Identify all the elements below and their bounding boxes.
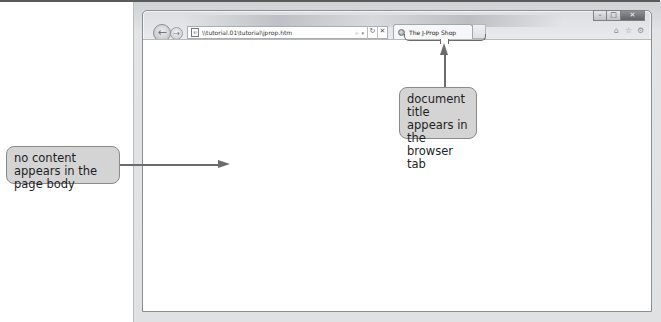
back-arrow-icon: ← [157, 26, 166, 39]
url-text[interactable]: \\tutorial.01\tutorial\jprop.htm [202, 29, 355, 36]
callout-connector-horizontal [120, 164, 220, 166]
home-icon[interactable]: ⌂ [612, 26, 621, 35]
search-icon[interactable]: ⌕ [355, 29, 359, 37]
maximize-button[interactable]: □ [607, 10, 621, 21]
page-body[interactable] [143, 39, 651, 311]
stop-button[interactable]: ✕ [377, 26, 387, 39]
refresh-button[interactable]: ↻ [367, 26, 377, 39]
address-bar[interactable]: e \\tutorial.01\tutorial\jprop.htm ⌕ ▾ ↻… [187, 26, 388, 39]
browser-window: ← → e \\tutorial.01\tutorial\jprop.htm ⌕… [133, 2, 661, 322]
forward-arrow-icon: → [173, 29, 180, 38]
close-button[interactable]: ✕ [621, 10, 645, 21]
gear-icon[interactable]: ⚙ [636, 26, 645, 35]
favorites-star-icon[interactable]: ☆ [624, 26, 633, 35]
callout-page-body: no content appears in the page body [6, 146, 120, 184]
arrow-right-icon [218, 160, 230, 168]
window-controls: – □ ✕ [593, 10, 645, 21]
toolbar-icons: ⌂ ☆ ⚙ [612, 26, 645, 35]
callout-tab-title: document title appears in the browser ta… [399, 87, 477, 139]
chevron-down-icon[interactable]: ▾ [361, 30, 364, 36]
callout-connector-vertical [444, 50, 446, 87]
minimize-button[interactable]: – [593, 10, 607, 21]
page-icon: e [191, 28, 199, 37]
